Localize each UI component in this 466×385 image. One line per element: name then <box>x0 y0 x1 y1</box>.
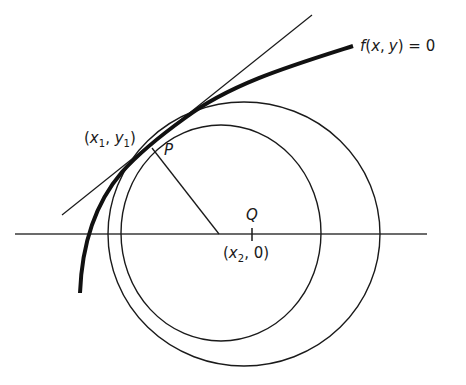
inner-circle <box>121 125 321 341</box>
point-q-label: Q <box>246 206 258 224</box>
diagram-figure: f(x,y) = 0 (x1, y1) P Q (x2, 0) <box>0 0 466 385</box>
point-p-coords-label: (x1, y1) <box>84 129 136 149</box>
curve-label: f(x,y) = 0 <box>360 37 435 55</box>
point-q-coords-label: (x2, 0) <box>223 244 269 264</box>
normal-line <box>152 148 219 234</box>
curve-f <box>80 46 353 293</box>
point-p-label: P <box>164 141 174 159</box>
